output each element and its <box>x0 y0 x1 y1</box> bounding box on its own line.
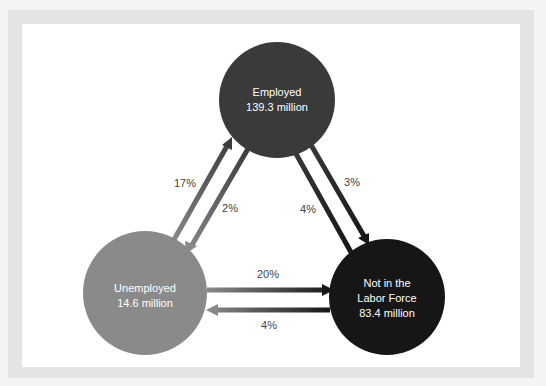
unemployed-name: Unemployed <box>114 281 176 296</box>
pct-employed-to-unemployed: 2% <box>222 202 238 214</box>
pct-not-in-labor-force-to-unemployed: 4% <box>261 319 277 331</box>
employed-value: 139.3 million <box>246 100 308 115</box>
not-in-labor-force-label: Not in the Labor Force 83.4 million <box>357 276 416 321</box>
pct-unemployed-to-employed: 17% <box>174 177 196 189</box>
unemployed-value: 14.6 million <box>114 296 176 311</box>
not-in-labor-force-line1: Not in the <box>357 276 416 291</box>
unemployed-label: Unemployed 14.6 million <box>114 281 176 311</box>
pct-unemployed-to-not-in-labor-force: 20% <box>257 268 279 280</box>
arrow-not-in-labor-force-to-unemployed <box>206 304 330 316</box>
pct-employed-to-not-in-labor-force: 3% <box>344 176 360 188</box>
not-in-labor-force-line2: Labor Force <box>357 291 416 306</box>
not-in-labor-force-value: 83.4 million <box>357 306 416 321</box>
arrow-unemployed-to-not-in-labor-force <box>207 284 334 296</box>
pct-not-in-labor-force-to-employed: 4% <box>300 203 316 215</box>
employed-name: Employed <box>246 85 308 100</box>
employed-label: Employed 139.3 million <box>246 85 308 115</box>
